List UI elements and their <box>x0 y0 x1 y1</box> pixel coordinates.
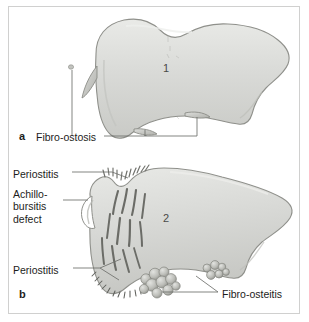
spur-fleck-a <box>68 65 73 69</box>
leader-periostitis-top <box>72 172 128 178</box>
panel-a-number-marker: 1 <box>163 62 169 74</box>
calcaneus-bone-b <box>90 168 292 294</box>
leader-fibro-osteitis-2 <box>196 276 218 292</box>
panel-b-number-marker: 2 <box>163 212 169 224</box>
label-fibro-osteitis: Fibro-osteitis <box>222 288 282 300</box>
panel-b-group <box>63 165 292 298</box>
label-periostitis-superior: Periostitis <box>13 168 59 180</box>
calcaneus-bone-a <box>96 19 290 138</box>
fibro-ostosis-spur-posterior <box>82 66 97 98</box>
panel-letter-b: b <box>19 289 26 300</box>
panel-letter-a: a <box>19 131 25 142</box>
label-achillo-bursitis-defect: Achillo- bursitis defect <box>13 188 47 225</box>
figure-container: a Fibro-ostosis 1 b Periostitis Achillo-… <box>0 0 309 322</box>
label-periostitis-inferior: Periostitis <box>13 264 59 276</box>
panel-a-group <box>68 19 289 138</box>
label-fibro-ostosis: Fibro-ostosis <box>36 131 96 143</box>
fibro-ostosis-spur-inferior-left <box>134 129 157 135</box>
